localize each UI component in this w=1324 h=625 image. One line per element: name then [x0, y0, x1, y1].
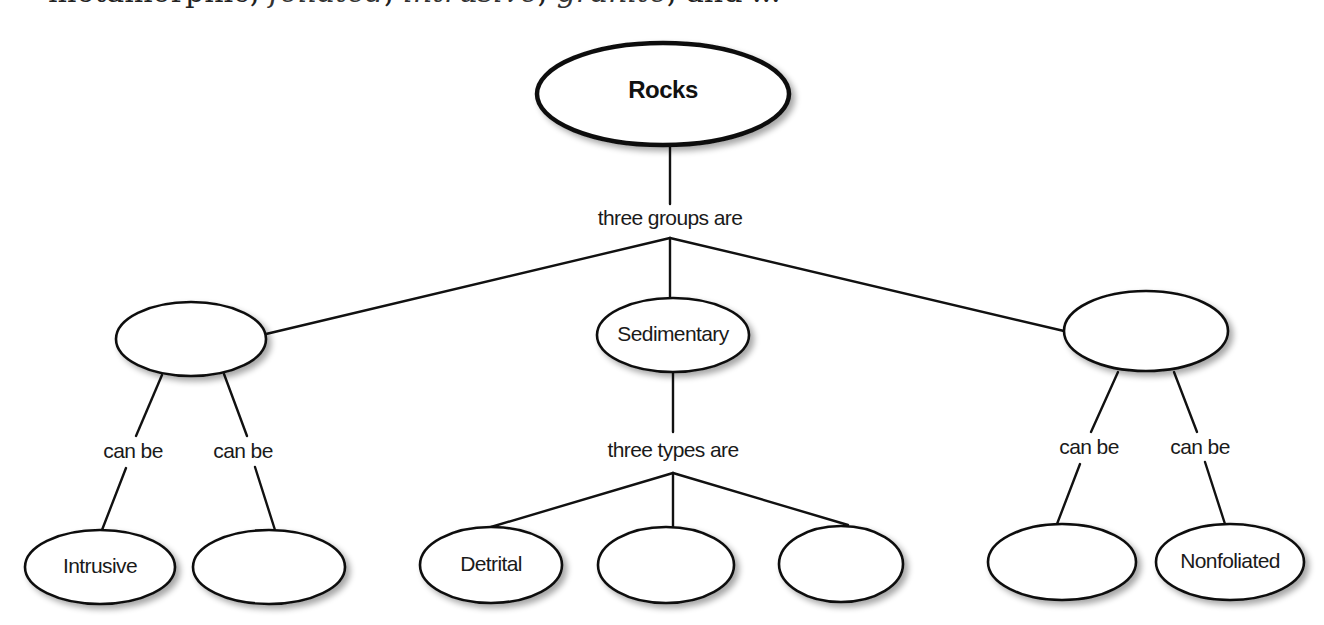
edge-g3-upper-right	[1174, 372, 1197, 432]
link-label-can-be: can be	[103, 439, 162, 462]
leaf-ellipse-blank	[988, 524, 1136, 600]
node-g3-child-2: Nonfoliated	[1156, 524, 1304, 600]
node-g2-child-2	[598, 527, 734, 603]
node-g2-child-3	[779, 526, 903, 602]
group-1-ellipse-blank	[116, 302, 266, 376]
node-group-1	[116, 302, 266, 376]
link-label-three-types: three types are	[607, 438, 738, 461]
link-label-can-be: can be	[213, 439, 272, 462]
edge-g2-child-3	[673, 473, 848, 525]
edge-g1-upper-right	[224, 374, 247, 436]
leaf-ellipse-blank	[193, 530, 345, 604]
leaf-label-detrital: Detrital	[460, 552, 522, 575]
edge-g3-lower-left	[1057, 464, 1080, 524]
edge-g3-lower-right	[1205, 462, 1225, 524]
leaf-ellipse-blank	[598, 527, 734, 603]
leaf-label-nonfoliated: Nonfoliated	[1180, 549, 1280, 572]
node-g2-child-1: Detrital	[420, 527, 562, 603]
node-root: Rocks	[537, 43, 789, 145]
link-label-can-be: can be	[1059, 435, 1118, 458]
edge-g1-upper-left	[136, 375, 162, 436]
group-3-ellipse-blank	[1064, 291, 1228, 371]
edge-g1-lower-right	[255, 467, 275, 530]
node-group-3	[1064, 291, 1228, 371]
node-group-2: Sedimentary	[597, 298, 749, 372]
edge-g2-child-1	[491, 473, 673, 527]
leaf-ellipse-blank	[779, 526, 903, 602]
edge-g3-upper-left	[1091, 372, 1118, 432]
leaf-label-intrusive: Intrusive	[63, 554, 137, 577]
link-label-can-be: can be	[1170, 435, 1229, 458]
node-g1-child-1: Intrusive	[25, 530, 175, 604]
concept-map: Rocks three groups are can be can be thr…	[0, 0, 1324, 625]
node-g1-child-2	[193, 530, 345, 604]
link-label-three-groups: three groups are	[598, 206, 743, 229]
group-2-label: Sedimentary	[617, 322, 729, 345]
node-g3-child-1	[988, 524, 1136, 600]
root-label: Rocks	[628, 76, 698, 103]
edge-g1-lower-left	[102, 468, 126, 530]
